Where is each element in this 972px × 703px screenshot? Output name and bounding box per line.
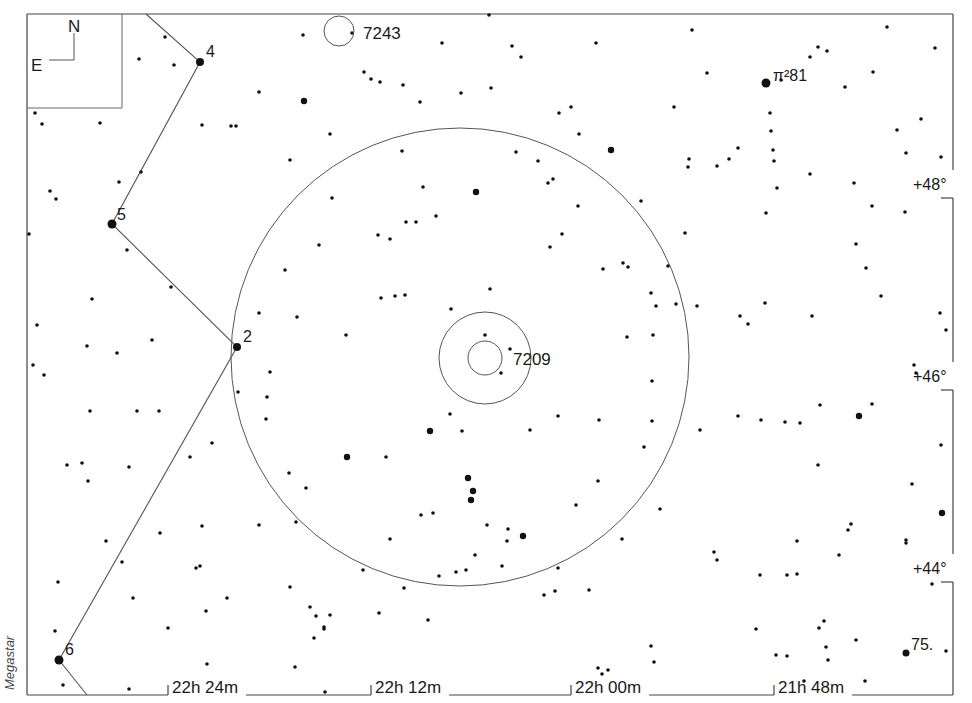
star bbox=[775, 186, 779, 190]
star bbox=[104, 539, 108, 543]
object-label-7209: 7209 bbox=[513, 350, 551, 369]
star bbox=[816, 45, 820, 49]
star bbox=[824, 645, 828, 649]
star bbox=[400, 149, 404, 153]
star bbox=[769, 129, 773, 133]
star bbox=[620, 537, 624, 541]
object-marker-7243 bbox=[324, 16, 354, 46]
star bbox=[651, 333, 655, 337]
star bbox=[229, 124, 233, 128]
star bbox=[200, 524, 204, 528]
star bbox=[301, 33, 305, 37]
star bbox=[158, 531, 162, 535]
star bbox=[485, 523, 489, 527]
star bbox=[569, 105, 573, 109]
star bbox=[414, 220, 418, 224]
star bbox=[785, 654, 789, 658]
star bbox=[384, 455, 388, 459]
star bbox=[377, 611, 381, 615]
star bbox=[758, 573, 762, 577]
star bbox=[120, 560, 124, 564]
star bbox=[264, 417, 268, 421]
star bbox=[944, 649, 948, 653]
star bbox=[795, 572, 799, 576]
star bbox=[846, 528, 850, 532]
star bbox=[705, 71, 709, 75]
star bbox=[236, 390, 240, 394]
star bbox=[459, 91, 463, 95]
star bbox=[505, 539, 509, 543]
star bbox=[295, 315, 299, 319]
star bbox=[939, 510, 945, 516]
star bbox=[499, 371, 503, 375]
star bbox=[40, 122, 44, 126]
star bbox=[852, 181, 856, 185]
deep-sky-objects: 72437209 bbox=[324, 16, 551, 404]
star bbox=[172, 63, 176, 67]
star bbox=[265, 395, 269, 399]
star bbox=[560, 232, 564, 236]
star bbox=[596, 666, 600, 670]
star bbox=[658, 507, 662, 511]
star bbox=[448, 412, 452, 416]
star bbox=[626, 265, 630, 269]
star bbox=[314, 614, 318, 618]
star bbox=[738, 314, 742, 318]
star bbox=[139, 170, 143, 174]
star bbox=[625, 335, 629, 339]
star-label: 75. bbox=[911, 636, 933, 653]
star bbox=[904, 151, 908, 155]
star bbox=[542, 593, 546, 597]
star bbox=[454, 570, 458, 574]
star bbox=[157, 409, 161, 413]
star bbox=[283, 268, 287, 272]
star bbox=[294, 520, 298, 524]
star bbox=[736, 146, 740, 150]
star bbox=[293, 665, 297, 669]
star bbox=[344, 454, 350, 460]
star bbox=[715, 164, 719, 168]
star bbox=[649, 644, 653, 648]
star bbox=[849, 522, 853, 526]
star bbox=[487, 13, 491, 17]
star bbox=[919, 117, 923, 121]
star bbox=[48, 189, 52, 193]
star bbox=[818, 403, 822, 407]
star bbox=[763, 301, 767, 305]
star bbox=[323, 690, 327, 694]
star bbox=[621, 261, 625, 265]
star-chart: NE 4526π²8175. 72437209 22h 24m22h 12m22… bbox=[0, 0, 972, 703]
star bbox=[727, 157, 731, 161]
star bbox=[650, 379, 654, 383]
named-star bbox=[108, 220, 117, 229]
star bbox=[308, 605, 312, 609]
star bbox=[205, 662, 209, 666]
named-star bbox=[196, 58, 204, 66]
star bbox=[843, 85, 847, 89]
star bbox=[649, 291, 653, 295]
star bbox=[421, 185, 425, 189]
star bbox=[837, 553, 841, 557]
star bbox=[754, 627, 758, 631]
star bbox=[257, 311, 261, 315]
star bbox=[596, 479, 600, 483]
star bbox=[854, 242, 858, 246]
star bbox=[551, 177, 555, 181]
star bbox=[317, 243, 321, 247]
star bbox=[393, 294, 397, 298]
star bbox=[489, 86, 493, 90]
star bbox=[166, 626, 170, 630]
star bbox=[910, 482, 914, 486]
star bbox=[287, 471, 291, 475]
star bbox=[783, 420, 787, 424]
star bbox=[431, 511, 435, 515]
star bbox=[594, 41, 598, 45]
star bbox=[546, 181, 550, 185]
star bbox=[597, 418, 601, 422]
ra-label: 22h 24m bbox=[172, 678, 238, 697]
star bbox=[169, 285, 173, 289]
ra-label: 21h 48m bbox=[778, 678, 844, 697]
star bbox=[437, 574, 441, 578]
star bbox=[856, 413, 862, 419]
star bbox=[587, 588, 591, 592]
